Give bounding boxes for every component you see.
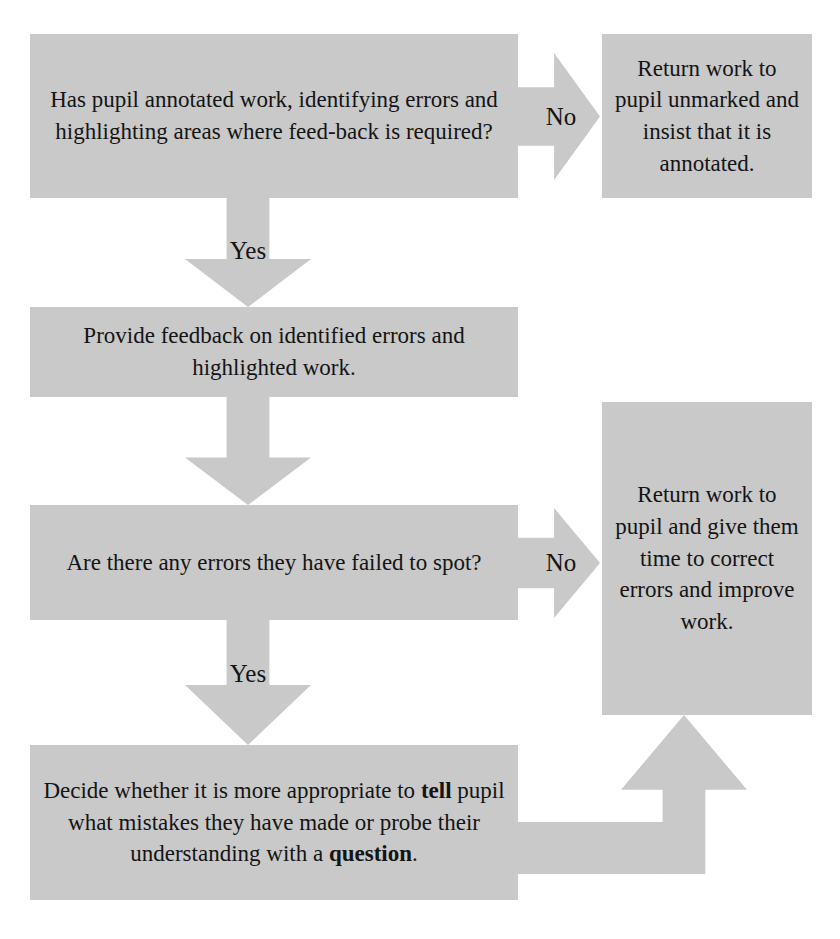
node-provide-feedback-label: Provide feedback on identified errors an… bbox=[30, 320, 518, 383]
decide-part-3: . bbox=[412, 841, 418, 866]
arrow-yes-1-label: Yes bbox=[185, 238, 311, 263]
arrow-no-2-label: No bbox=[524, 550, 598, 575]
node-decide-tell-or-question: Decide whether it is more appropriate to… bbox=[30, 745, 518, 900]
node-provide-feedback: Provide feedback on identified errors an… bbox=[30, 307, 518, 397]
flowchart-canvas: Has pupil annotated work, identifying er… bbox=[0, 0, 840, 939]
arrow-feedback-to-errors bbox=[185, 397, 311, 505]
arrow-yes-2-label: Yes bbox=[185, 661, 311, 686]
node-return-unmarked: Return work to pupil unmarked and insist… bbox=[602, 34, 812, 198]
node-question-annotated-label: Has pupil annotated work, identifying er… bbox=[30, 84, 518, 147]
node-question-missed-errors: Are there any errors they have failed to… bbox=[30, 505, 518, 620]
node-return-unmarked-label: Return work to pupil unmarked and insist… bbox=[602, 53, 812, 180]
decide-part-1: Decide whether it is more appropriate to bbox=[43, 778, 420, 803]
node-return-correct-improve: Return work to pupil and give them time … bbox=[602, 402, 812, 715]
node-decide-tell-or-question-label: Decide whether it is more appropriate to… bbox=[30, 775, 518, 870]
arrow-loopback-horizontal bbox=[518, 822, 668, 874]
decide-bold-tell: tell bbox=[421, 778, 452, 803]
node-question-missed-errors-label: Are there any errors they have failed to… bbox=[30, 547, 518, 579]
decide-bold-question: question bbox=[329, 841, 412, 866]
arrow-no-1-label: No bbox=[524, 104, 598, 129]
node-return-correct-improve-label: Return work to pupil and give them time … bbox=[602, 479, 812, 638]
node-question-annotated: Has pupil annotated work, identifying er… bbox=[30, 34, 518, 198]
